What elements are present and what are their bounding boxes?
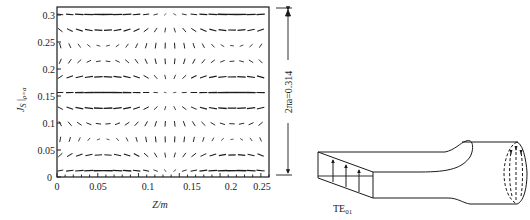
field-arrow [182,107,186,110]
field-arrow [86,123,91,125]
field-arrow [173,14,176,16]
field-arrow [87,44,90,47]
mode-label-main: TE [333,203,345,214]
field-arrow [182,75,186,79]
field-arrow [192,153,197,157]
field-arrow [218,108,227,109]
field-arrow [258,154,264,157]
field-arrow [59,121,62,126]
field-arrow [135,122,139,126]
x-tick: 0.25 [253,181,271,192]
field-arrow [174,121,175,127]
field-arrow [220,123,225,125]
field-arrow [96,123,101,124]
field-arrow [126,44,129,48]
field-arrow [67,153,72,156]
y-axis-label-eval: ρ=a [20,87,28,100]
field-arrow [76,154,82,156]
field-arrow [257,107,264,109]
field-arrow [209,108,217,109]
y-tick: 0.2 [43,64,56,75]
field-arrow [182,170,187,172]
field-arrow [200,107,207,109]
x-axis [57,173,269,177]
field-arrow [209,29,216,31]
field-arrow [184,137,185,143]
field-arrow [237,77,245,78]
mode-label: TE01 [333,203,353,216]
field-arrow [199,14,207,15]
field-arrow [211,60,215,63]
field-arrow [78,137,80,141]
field-arrow [221,138,224,140]
y-tick: 0.15 [38,91,56,102]
field-arrow [145,121,148,126]
field-arrow [95,30,103,31]
field-arrow [133,14,141,15]
field-arrow [143,170,149,171]
field-arrow [247,170,256,171]
field-arrow [203,137,205,142]
field-arrow [85,29,93,30]
field-arrow [67,29,73,32]
field-arrow [124,29,131,31]
dimension-label: 2πa=0.314 [283,71,294,114]
field-arrow [155,137,156,143]
field-arrow [202,59,205,63]
field-arrow [257,76,264,78]
field-arrow [201,122,205,126]
field-arrow [144,107,149,110]
field-arrow [134,154,140,157]
field-arrow [76,76,83,78]
field-arrow [164,92,167,93]
field-arrow [259,44,262,48]
y-tick: 0 [47,172,52,183]
field-arrow [114,76,122,77]
field-arrow [165,28,166,33]
field-arrow [59,59,61,64]
y-tick: 0.1 [43,118,56,129]
field-arrow [96,61,101,62]
field-arrow [210,154,217,156]
field-arrow [75,170,84,171]
field-arrow [212,138,214,142]
field-arrow [87,60,91,62]
field-arrow [58,153,62,157]
field-arrow [106,45,110,46]
field-arrow [230,139,233,140]
field-arrow [239,61,244,62]
field-arrow [68,122,72,126]
field-arrow [257,29,264,31]
field-arrow [154,75,157,79]
field-arrow [85,154,92,155]
field-arrow [143,14,149,15]
field-arrow [155,59,156,65]
field-arrow [114,154,121,155]
field-arrow [154,170,158,172]
field-arrow [200,76,207,78]
field-arrow [240,45,244,46]
field-arrow [249,123,254,125]
field-arrow [183,121,185,126]
field-arrow [239,123,244,124]
field-arrow [238,155,245,156]
field-arrow [191,76,196,79]
field-arrow [154,153,157,158]
field-arrow [105,124,110,125]
field-arrow [259,60,263,64]
svg-text:JS |ρ=a: JS |ρ=a [15,87,28,112]
vector-field-plot: 0 0.05 0.1 0.15 0.2 0.25 0.3 0 0.05 0.1 … [15,7,294,210]
vector-field-arrows [57,13,265,172]
y-tick: 0.25 [38,37,56,48]
field-arrow [191,14,198,15]
field-arrow [58,28,63,32]
field-arrow [191,107,197,110]
field-arrow [85,108,93,109]
field-arrow [123,76,130,78]
y-axis-label: JS |ρ=a [15,87,28,112]
field-arrow [133,76,139,78]
field-arrow [248,154,255,156]
field-arrow [247,29,254,31]
field-arrow [113,108,121,109]
field-arrow [165,75,166,79]
